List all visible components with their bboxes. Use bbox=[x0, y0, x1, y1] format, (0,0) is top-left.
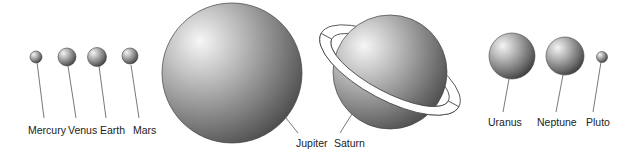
label-jupiter: Jupiter bbox=[296, 137, 328, 149]
label-venus: Venus bbox=[68, 124, 97, 136]
planet-venus bbox=[58, 48, 76, 118]
label-saturn: Saturn bbox=[334, 137, 365, 149]
solar-system-diagram: Mercury Venus Earth Mars Jupiter Saturn … bbox=[0, 0, 640, 157]
planet-mars bbox=[122, 48, 139, 118]
planet-neptune bbox=[546, 37, 584, 112]
label-mercury: Mercury bbox=[28, 124, 66, 136]
planet-saturn bbox=[307, 7, 473, 133]
label-earth: Earth bbox=[100, 124, 125, 136]
planet-mercury bbox=[30, 51, 44, 118]
label-neptune: Neptune bbox=[537, 116, 577, 128]
planet-earth bbox=[88, 48, 107, 119]
label-pluto: Pluto bbox=[586, 116, 610, 128]
planet-uranus bbox=[489, 33, 535, 112]
label-uranus: Uranus bbox=[488, 116, 522, 128]
planet-jupiter bbox=[162, 3, 302, 143]
planet-pluto bbox=[593, 52, 608, 113]
label-mars: Mars bbox=[133, 124, 156, 136]
